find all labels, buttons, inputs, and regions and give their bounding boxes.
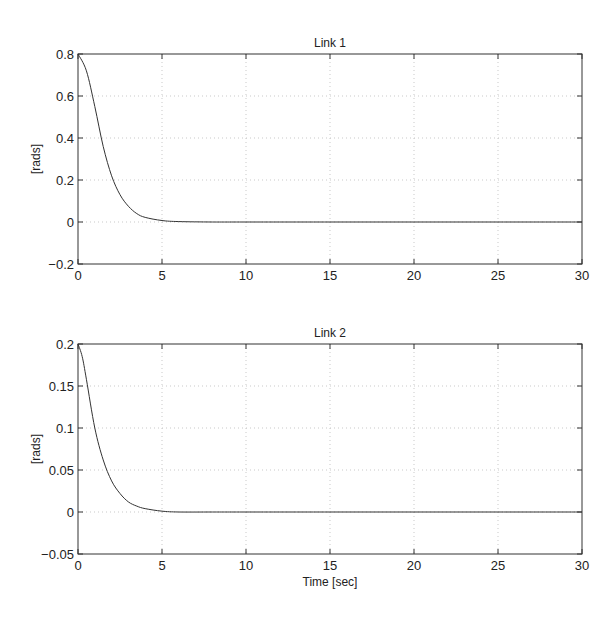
x-tick-label: 10	[239, 268, 253, 283]
chart-title: Link 1	[314, 36, 346, 50]
y-tick-label: 0.2	[56, 337, 74, 352]
x-tick-label: 30	[575, 268, 589, 283]
x-tick-label: 10	[239, 558, 253, 573]
chart-title: Link 2	[314, 326, 346, 340]
y-tick-label: 0.4	[56, 131, 74, 146]
y-tick-label: 0	[67, 215, 74, 230]
x-tick-label: 5	[158, 558, 165, 573]
y-tick-label: 0.1	[56, 421, 74, 436]
x-tick-label: 5	[158, 268, 165, 283]
x-tick-label: 20	[407, 558, 421, 573]
y-tick-label: 0.6	[56, 89, 74, 104]
y-tick-label: −0.2	[48, 257, 74, 272]
x-tick-label: 0	[74, 268, 81, 283]
y-tick-label: 0.2	[56, 173, 74, 188]
x-tick-label: 30	[575, 558, 589, 573]
x-axis-label: Time [sec]	[303, 575, 358, 589]
y-tick-label: 0	[67, 505, 74, 520]
subplot-2: 051015202530−0.0500.050.10.150.2Link 2[r…	[29, 326, 589, 589]
x-tick-label: 20	[407, 268, 421, 283]
x-tick-label: 15	[323, 558, 337, 573]
y-tick-label: 0.8	[56, 47, 74, 62]
subplot-1: 051015202530−0.200.20.40.60.8Link 1[rads…	[29, 36, 589, 283]
y-tick-label: −0.05	[41, 547, 74, 562]
y-axis-label: [rads]	[29, 144, 43, 174]
x-tick-label: 25	[491, 268, 505, 283]
y-tick-label: 0.05	[49, 463, 74, 478]
x-tick-label: 25	[491, 558, 505, 573]
y-axis-label: [rads]	[29, 434, 43, 464]
x-tick-label: 0	[74, 558, 81, 573]
x-tick-label: 15	[323, 268, 337, 283]
figure: 051015202530−0.200.20.40.60.8Link 1[rads…	[0, 0, 616, 625]
y-tick-label: 0.15	[49, 379, 74, 394]
